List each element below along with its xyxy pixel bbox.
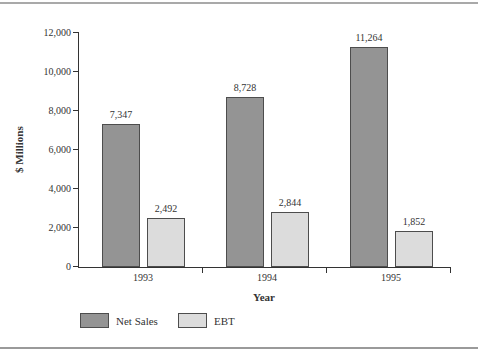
y-axis-tick [73,110,79,111]
bar-value-label-ebt-1994: 2,844 [251,197,329,209]
bar-value-label-ebt-1995: 1,852 [375,216,453,228]
y-axis-tick-label: 0 [15,261,71,273]
y-axis-tick [73,71,79,72]
y-axis-tick [73,32,79,33]
ebt-legend-label: EBT [214,315,235,327]
bar-value-label-net-sales-1993: 7,347 [82,109,160,121]
x-axis-tick-label: 1995 [327,272,455,283]
y-axis-tick-label: 8,000 [15,105,71,117]
ebt-swatch [178,313,207,328]
y-axis-tick [73,188,79,189]
x-axis-tick-label: 1993 [79,272,207,283]
y-axis-tick [73,227,79,228]
bar-ebt-1993 [147,218,185,267]
bar-ebt-1995 [395,231,433,267]
x-axis-title: Year [78,291,450,303]
y-axis-tick-label: 4,000 [15,183,71,195]
y-axis-tick-label: 2,000 [15,222,71,234]
bar-value-label-net-sales-1994: 8,728 [206,82,284,94]
plot-area: 02,0004,0006,0008,00010,00012,0001993199… [78,33,451,268]
top-rule [0,2,478,4]
x-axis-tick-label: 1994 [203,272,331,283]
y-axis-tick [73,149,79,150]
bar-ebt-1994 [271,212,309,267]
bar-net-sales-1994 [226,97,264,267]
figure: $ Millions 02,0004,0006,0008,00010,00012… [0,0,478,354]
bottom-rule [0,347,478,349]
y-axis-tick-label: 10,000 [15,66,71,78]
legend-entry-net-sales: Net Sales [80,313,158,328]
bar-net-sales-1993 [102,124,140,267]
net-sales-swatch [80,313,109,328]
y-axis-tick-label: 6,000 [15,144,71,156]
y-axis-tick-label: 12,000 [15,27,71,39]
bar-net-sales-1995 [350,47,388,267]
bar-value-label-net-sales-1995: 11,264 [330,32,408,44]
net-sales-legend-label: Net Sales [116,315,158,327]
bar-value-label-ebt-1993: 2,492 [127,203,205,215]
y-axis-tick [73,266,79,267]
legend-entry-ebt: EBT [178,313,235,328]
